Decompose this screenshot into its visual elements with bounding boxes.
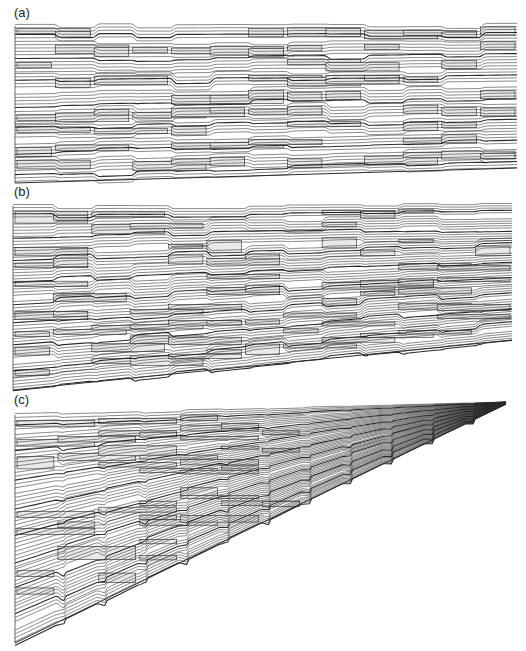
stippled-block [442, 135, 477, 143]
stippled-block [15, 347, 49, 355]
storyline [13, 237, 512, 248]
panel-a-diagram [15, 23, 517, 183]
stippled-block [287, 92, 322, 100]
storyline [13, 223, 512, 233]
stippled-block [480, 108, 515, 116]
stippled-block [480, 91, 515, 99]
storyline [15, 66, 517, 75]
stippled-block [245, 254, 279, 259]
stippled-block [403, 105, 438, 113]
storyline-figure [0, 0, 526, 651]
panel-b-diagram [13, 204, 512, 391]
stippled-block [210, 157, 245, 165]
stippled-block [56, 79, 91, 88]
stippled-block [94, 76, 167, 85]
stippled-block [326, 63, 399, 71]
stippled-block [249, 29, 284, 37]
stippled-block [480, 42, 515, 50]
stippled-block [17, 457, 54, 469]
stippled-block [326, 28, 361, 36]
stippled-block [249, 91, 284, 99]
stippled-block [480, 27, 515, 35]
panel-bottom-edge [15, 168, 517, 183]
stippled-block [287, 107, 322, 115]
stippled-block [172, 127, 207, 136]
stippled-block [53, 258, 87, 267]
panel-c-diagram [15, 402, 506, 646]
stippled-block [361, 212, 395, 218]
stippled-block [403, 122, 438, 130]
stippled-block [442, 107, 477, 115]
stippled-block [326, 91, 361, 99]
stippled-block [442, 61, 477, 69]
stippled-block [94, 48, 129, 57]
stippled-block [17, 148, 52, 157]
stippled-block [17, 160, 90, 169]
